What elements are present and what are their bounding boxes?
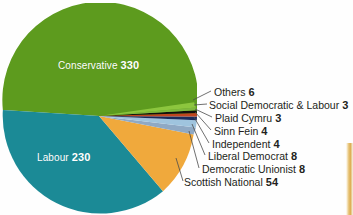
callout-others-value: 6 (249, 86, 255, 98)
callout-others: Others6 (214, 87, 255, 98)
callout-others-name: Others (214, 86, 246, 98)
callout-liberal-democrat: Liberal Democrat8 (208, 151, 297, 162)
callout-scottish-national-name: Scottish National (184, 176, 263, 188)
callout-democratic-unionist-value: 8 (299, 163, 305, 175)
callout-scottish-national-value: 54 (266, 176, 278, 188)
page-edge-artifact (346, 143, 353, 215)
callout-social-democratic-labour-name: Social Democratic & Labour (209, 99, 339, 111)
callout-plaid-cymru-name: Plaid Cymru (215, 112, 272, 124)
leader-line-sinn-fein (195, 112, 211, 130)
callout-social-democratic-labour: Social Democratic & Labour3 (209, 100, 348, 111)
callout-sinn-fein: Sinn Fein4 (214, 126, 267, 137)
callout-sinn-fein-name: Sinn Fein (214, 125, 258, 137)
pie-label-conservative-name: Conservative (58, 60, 118, 71)
callout-democratic-unionist-name: Democratic Unionist (202, 163, 296, 175)
callout-sinn-fein-value: 4 (261, 125, 267, 137)
callout-scottish-national: Scottish National54 (184, 177, 278, 188)
callout-independent: Independent4 (212, 139, 280, 150)
callout-independent-value: 4 (273, 138, 279, 150)
pie-label-labour: Labour230 (37, 151, 90, 163)
callout-liberal-democrat-name: Liberal Democrat (208, 150, 288, 162)
pie-label-labour-value: 230 (72, 151, 91, 163)
callout-independent-name: Independent (212, 138, 270, 150)
pie-label-labour-name: Labour (37, 152, 69, 163)
pie-label-conservative: Conservative330 (58, 59, 139, 71)
callout-social-democratic-labour-value: 3 (342, 99, 348, 111)
pie-chart: Conservative330 Labour230 (1, 3, 197, 215)
callout-democratic-unionist: Democratic Unionist8 (202, 164, 305, 175)
callout-plaid-cymru: Plaid Cymru3 (215, 113, 281, 124)
callout-liberal-democrat-value: 8 (291, 150, 297, 162)
chart-canvas: Conservative330 Labour230 Others6 Social… (0, 0, 353, 215)
pie-svg (1, 3, 197, 215)
pie-label-conservative-value: 330 (121, 59, 140, 71)
callout-plaid-cymru-value: 3 (275, 112, 281, 124)
